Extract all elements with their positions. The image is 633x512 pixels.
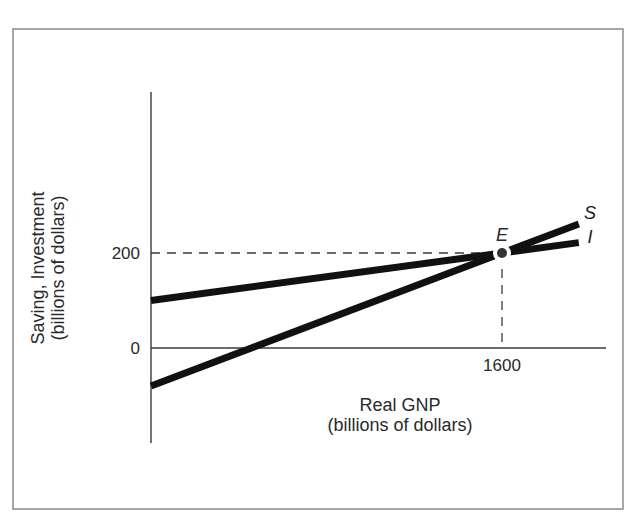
- x-tick-label-1600: 1600: [483, 356, 521, 375]
- y-tick-label-200: 200: [112, 244, 140, 263]
- series-label-saving: S: [584, 203, 596, 223]
- series-label-investment: I: [587, 227, 592, 247]
- equilibrium-point: [497, 248, 507, 258]
- y-axis-title-line2: (billions of dollars): [48, 195, 68, 340]
- series-line-i: [151, 243, 579, 301]
- figure-frame: [13, 29, 623, 509]
- y-tick-label-0: 0: [131, 339, 140, 358]
- equilibrium-label: E: [496, 225, 509, 245]
- x-axis-title-line2: (billions of dollars): [327, 415, 472, 435]
- y-axis-title: Saving, Investment (billions of dollars): [28, 191, 68, 344]
- x-axis-title-line1: Real GNP: [359, 395, 440, 415]
- y-axis-title-line1: Saving, Investment: [28, 191, 48, 344]
- saving-investment-chart: E 200 0 1600 Real GNP (billions of dolla…: [0, 0, 633, 512]
